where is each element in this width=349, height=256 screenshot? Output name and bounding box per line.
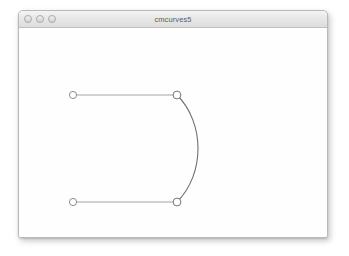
minimize-button-icon[interactable] xyxy=(36,15,44,23)
window-controls xyxy=(24,15,56,23)
window-titlebar[interactable]: cmcurves5 xyxy=(19,11,327,28)
close-button-icon[interactable] xyxy=(24,15,32,23)
anchor-point-bottom-right[interactable] xyxy=(173,198,181,206)
control-point-bottom-left[interactable] xyxy=(69,198,76,205)
bezier-curve-path[interactable] xyxy=(177,95,198,202)
curve-canvas-svg xyxy=(19,28,327,237)
anchor-point-top-right[interactable] xyxy=(173,91,181,99)
control-point-top-left[interactable] xyxy=(69,91,76,98)
window-title: cmcurves5 xyxy=(19,11,327,28)
curve-editor-canvas[interactable] xyxy=(19,28,327,237)
zoom-button-icon[interactable] xyxy=(48,15,56,23)
application-window: cmcurves5 xyxy=(18,10,328,238)
